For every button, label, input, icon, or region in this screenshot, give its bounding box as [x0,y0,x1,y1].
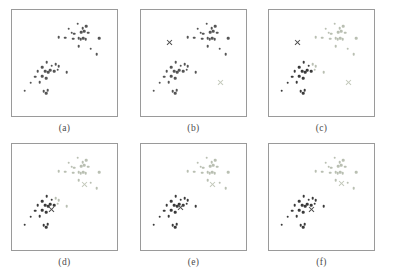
data-point [202,167,205,170]
data-point [36,204,39,207]
data-point [45,211,48,214]
data-point [76,22,79,25]
data-point [298,200,301,203]
data-point [39,215,42,218]
data-point [340,164,343,167]
data-point [84,38,87,41]
data-point [214,159,217,162]
centroid-marker-b [81,181,88,188]
data-point [57,199,60,202]
data-point [30,215,33,218]
scatter-plot-f [269,144,374,250]
panel-a [11,9,118,117]
data-point [280,223,283,226]
panel-d [11,143,118,251]
panel-caption-e: (e) [140,257,247,267]
data-point [174,77,177,80]
data-point [170,209,173,212]
data-point [41,75,44,78]
panel-f [268,143,375,251]
data-point [308,198,311,201]
data-point [186,199,189,202]
data-point [98,171,101,174]
data-point [51,198,54,201]
scatter-plot-c [269,10,374,116]
panel-caption-b: (b) [140,123,247,133]
data-point [213,172,216,175]
data-point [159,215,162,218]
data-point [57,170,60,173]
data-point [352,53,355,56]
data-point [280,89,283,92]
data-point [298,209,301,212]
data-point [174,61,177,64]
panel-caption-f: (f) [268,257,375,267]
data-point [194,71,197,74]
scatter-plot-b [141,10,246,116]
centroid-marker-a [294,39,301,46]
data-point [45,77,48,80]
data-point [202,33,205,36]
data-point [293,70,296,73]
data-point [334,45,337,48]
data-point [194,205,197,208]
data-point [67,27,70,30]
data-point [352,187,355,190]
data-point [186,36,189,39]
data-point [224,187,227,190]
data-point [342,25,345,28]
data-point [342,159,345,162]
data-point [168,215,171,218]
panel-caption-a: (a) [11,123,118,133]
data-point [206,45,209,48]
data-point [341,172,344,175]
data-point [87,165,90,168]
data-point [205,22,208,25]
data-point [39,81,42,84]
data-point [321,170,324,173]
data-point [174,226,177,229]
data-point [186,65,189,68]
data-point [57,65,60,68]
data-point [45,195,48,198]
data-point [193,170,196,173]
data-point [302,92,305,95]
data-point [302,77,305,80]
data-point [23,89,26,92]
data-point [216,31,219,34]
data-point [302,226,305,229]
data-point [291,75,294,78]
data-point [218,47,221,50]
data-point [314,36,317,39]
data-point [340,30,343,33]
data-point [333,156,336,159]
data-point [324,27,327,30]
data-point [168,81,171,84]
panel-caption-c: (c) [268,123,375,133]
data-point [178,69,181,72]
data-point [313,203,316,206]
data-point [95,187,98,190]
data-point [87,31,90,34]
data-point [324,161,327,164]
data-point [53,70,56,73]
data-point [287,81,290,84]
data-point [314,199,317,202]
data-point [73,167,76,170]
data-point [310,70,313,73]
data-point [201,37,204,40]
data-point [218,181,221,184]
data-point [330,167,333,170]
data-point [34,209,37,212]
centroid-marker-b [345,79,352,86]
data-point [329,37,332,40]
data-point [163,209,166,212]
data-point [45,61,48,64]
data-point [306,69,309,72]
data-point [314,65,317,68]
panel-c [268,9,375,117]
data-point [333,22,336,25]
data-point [314,170,317,173]
data-point [287,215,290,218]
data-point [30,81,33,84]
